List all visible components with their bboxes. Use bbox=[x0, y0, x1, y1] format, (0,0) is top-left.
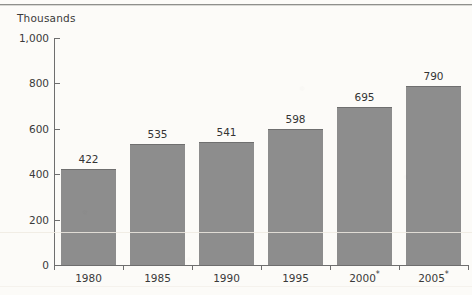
y-axis-tick-label-wrap: 200 bbox=[0, 220, 49, 232]
bar bbox=[199, 142, 254, 265]
bar-value-label: 598 bbox=[266, 113, 326, 125]
x-axis-tick bbox=[123, 265, 124, 270]
bar bbox=[130, 144, 185, 265]
x-axis-tick bbox=[399, 265, 400, 270]
bar-value-label: 422 bbox=[59, 153, 119, 165]
x-axis-tick bbox=[54, 265, 55, 270]
y-axis-tick-label-wrap: 400 bbox=[0, 174, 49, 186]
bar bbox=[61, 169, 116, 265]
y-axis-tick bbox=[55, 38, 60, 39]
bar-value-label: 541 bbox=[197, 126, 257, 138]
y-axis-tick-label: 600 bbox=[0, 123, 49, 135]
y-axis-tick bbox=[55, 265, 60, 266]
bar-value-label: 790 bbox=[404, 70, 464, 82]
x-axis-tick bbox=[330, 265, 331, 270]
top-border-rule-shadow bbox=[0, 5, 472, 6]
x-axis-category-label: 1990 bbox=[192, 272, 262, 284]
bar-value-label: 535 bbox=[128, 128, 188, 140]
y-axis-tick-label: 400 bbox=[0, 168, 49, 180]
x-axis-category-label: 2005* bbox=[399, 272, 469, 284]
y-axis-tick bbox=[55, 129, 60, 130]
scan-artifact-line bbox=[0, 232, 472, 233]
y-axis-tick bbox=[55, 83, 60, 84]
x-axis-tick bbox=[468, 265, 469, 270]
y-axis-tick-label: 0 bbox=[0, 259, 49, 271]
y-axis-tick bbox=[55, 174, 60, 175]
x-axis-category-label: 1985 bbox=[123, 272, 193, 284]
y-axis-tick-label-wrap: 0 bbox=[0, 265, 49, 277]
y-axis-tick-label: 200 bbox=[0, 214, 49, 226]
x-axis-tick bbox=[261, 265, 262, 270]
y-axis-tick-label: 800 bbox=[0, 77, 49, 89]
y-axis-unit-label: Thousands bbox=[17, 12, 76, 24]
bar bbox=[406, 86, 461, 265]
x-axis-tick bbox=[192, 265, 193, 270]
y-axis-tick bbox=[55, 220, 60, 221]
footnote-marker: * bbox=[445, 270, 449, 279]
bar bbox=[337, 107, 392, 265]
x-axis-category-label: 1995 bbox=[261, 272, 331, 284]
x-axis-category-label: 1980 bbox=[54, 272, 124, 284]
bar-value-label: 695 bbox=[335, 91, 395, 103]
footnote-marker: * bbox=[376, 270, 380, 279]
y-axis-tick-label-wrap: 1,000 bbox=[0, 38, 49, 50]
scan-artifact-line-2 bbox=[0, 286, 472, 287]
bar-chart: Thousands 02004006008001,000 42253554159… bbox=[0, 0, 472, 295]
bar bbox=[268, 129, 323, 265]
y-axis-tick-label-wrap: 800 bbox=[0, 83, 49, 95]
y-axis-tick-label: 1,000 bbox=[0, 32, 49, 44]
x-axis-category-label: 2000* bbox=[330, 272, 400, 284]
y-axis-tick-label-wrap: 600 bbox=[0, 129, 49, 141]
